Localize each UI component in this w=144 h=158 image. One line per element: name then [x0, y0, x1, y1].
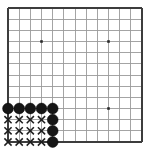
black-stone[interactable] — [3, 103, 14, 114]
star-point — [40, 40, 43, 43]
black-stone[interactable] — [25, 103, 36, 114]
star-point — [107, 107, 110, 110]
black-stone[interactable] — [47, 137, 58, 148]
black-stone[interactable] — [47, 103, 58, 114]
black-stone[interactable] — [47, 125, 58, 136]
black-stone[interactable] — [47, 114, 58, 125]
star-point — [107, 40, 110, 43]
go-board-diagram — [0, 0, 144, 158]
black-stone[interactable] — [36, 103, 47, 114]
black-stone[interactable] — [14, 103, 25, 114]
board-canvas[interactable] — [0, 0, 144, 158]
